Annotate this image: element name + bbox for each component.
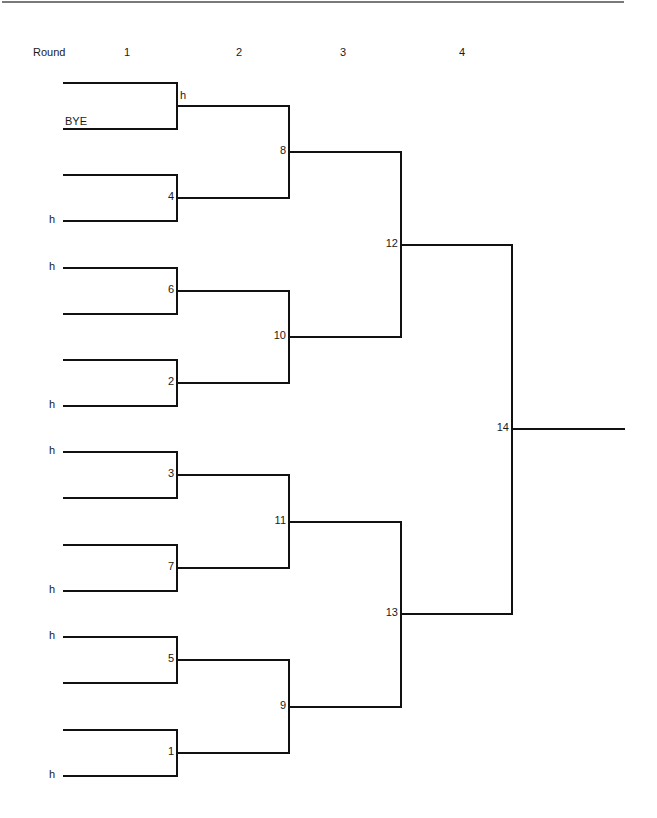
entry-line xyxy=(63,313,178,315)
advance-line xyxy=(401,613,513,615)
entry-line xyxy=(63,82,178,84)
match-number: 1 xyxy=(144,745,174,757)
top-rule xyxy=(2,1,624,3)
match-number: 13 xyxy=(368,606,398,618)
match-number: 12 xyxy=(368,237,398,249)
entry-line xyxy=(63,497,178,499)
entry-line xyxy=(63,174,178,176)
advance-line xyxy=(401,244,513,246)
final-match-number: 14 xyxy=(479,421,509,433)
advance-line xyxy=(177,659,290,661)
match-number: 4 xyxy=(144,190,174,202)
advance-line xyxy=(177,382,290,384)
advance-line xyxy=(177,752,290,754)
match-number: 11 xyxy=(256,514,286,526)
entry-line xyxy=(63,775,178,777)
match-number: 3 xyxy=(144,467,174,479)
match-number: 2 xyxy=(144,375,174,387)
entry-line xyxy=(63,636,178,638)
seed-label: h xyxy=(49,444,55,456)
match-number: 9 xyxy=(256,699,286,711)
entry-line xyxy=(63,729,178,731)
match-number: 6 xyxy=(144,283,174,295)
seed-label: h xyxy=(49,583,55,595)
round-3-header: 3 xyxy=(340,46,346,58)
round-1-header: 1 xyxy=(124,46,130,58)
seed-label: h xyxy=(49,398,55,410)
advance-line xyxy=(289,336,402,338)
advance-line xyxy=(177,474,290,476)
seed-label: h xyxy=(49,260,55,272)
match-number: 5 xyxy=(144,652,174,664)
bye-label: BYE xyxy=(65,115,87,127)
round-2-header: 2 xyxy=(236,46,242,58)
advance-line xyxy=(177,567,290,569)
advance-line xyxy=(289,521,402,523)
advance-line xyxy=(177,197,290,199)
entry-line xyxy=(63,267,178,269)
advance-line xyxy=(289,151,402,153)
seed-label: h xyxy=(49,768,55,780)
match-number: 7 xyxy=(144,560,174,572)
seed-label: h xyxy=(49,629,55,641)
entry-line xyxy=(63,405,178,407)
match-number: 8 xyxy=(256,144,286,156)
entry-line xyxy=(63,451,178,453)
entry-line xyxy=(63,682,178,684)
advance-line xyxy=(177,290,290,292)
advance-line xyxy=(289,706,402,708)
round-4-header: 4 xyxy=(459,46,465,58)
match-number: h xyxy=(180,89,186,101)
entry-line xyxy=(63,220,178,222)
advance-line xyxy=(177,105,290,107)
winner-line xyxy=(512,428,625,430)
entry-line xyxy=(63,128,178,130)
match-number: 10 xyxy=(256,329,286,341)
entry-line xyxy=(63,590,178,592)
entry-line xyxy=(63,359,178,361)
entry-line xyxy=(63,544,178,546)
seed-label: h xyxy=(49,213,55,225)
round-header-label: Round xyxy=(33,46,65,58)
